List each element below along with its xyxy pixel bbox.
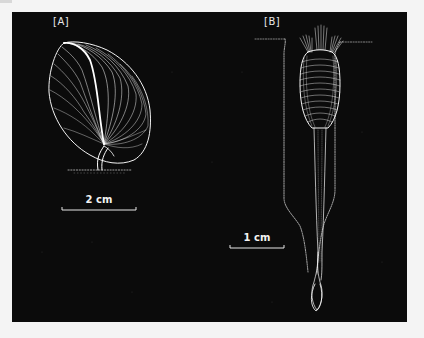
scale-label-b: 1 cm <box>244 232 271 243</box>
scale-label-a: 2 cm <box>86 194 113 205</box>
shell-b-growth-lines <box>300 59 340 122</box>
organism-a-illustration <box>49 42 151 173</box>
pedicle-bulb <box>311 284 321 311</box>
illustration-canvas <box>12 12 407 322</box>
scale-bar-b <box>230 245 284 248</box>
scale-bar-a <box>62 207 136 210</box>
figure-panel: [A] [B] 2 cm 1 cm <box>12 12 407 322</box>
corner-artifact <box>0 0 12 3</box>
burrow-wall-left <box>284 39 308 272</box>
pedicle-b <box>312 128 322 310</box>
organism-b-illustration <box>255 25 372 311</box>
panel-label-a: [A] <box>53 16 69 27</box>
panel-label-b: [B] <box>264 16 280 27</box>
